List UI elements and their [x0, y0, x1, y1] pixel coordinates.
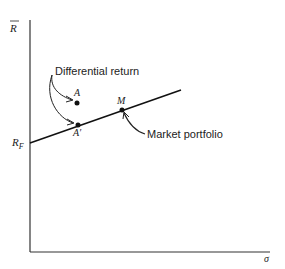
x-axis-label: σ [264, 253, 269, 264]
point-a [75, 101, 80, 106]
risk-free-sub: F [19, 142, 24, 151]
point-a-label: A [74, 87, 80, 98]
market-portfolio-label: Market portfolio [147, 128, 223, 140]
risk-free-label: RF [12, 136, 24, 151]
risk-free-r: R [12, 136, 19, 148]
arrow-to-a [52, 75, 72, 100]
arrow-to-m [124, 113, 145, 134]
diagram-canvas [0, 0, 285, 269]
differential-return-label: Differential return [55, 65, 139, 77]
point-a-prime-label: A′ [73, 127, 81, 138]
point-m-label: M [117, 95, 125, 106]
y-axis-label: R [10, 22, 17, 34]
